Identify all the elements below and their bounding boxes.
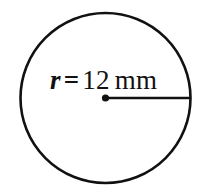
- circle-diagram-canvas: [0, 0, 209, 195]
- radius-label: r=12mm: [50, 67, 157, 94]
- center-dot: [102, 94, 109, 101]
- circle-diagram: r=12mm: [0, 0, 209, 195]
- radius-value: 12: [82, 65, 109, 95]
- radius-symbol: r: [50, 65, 63, 95]
- equals-sign: =: [63, 65, 83, 95]
- radius-unit: mm: [110, 65, 157, 95]
